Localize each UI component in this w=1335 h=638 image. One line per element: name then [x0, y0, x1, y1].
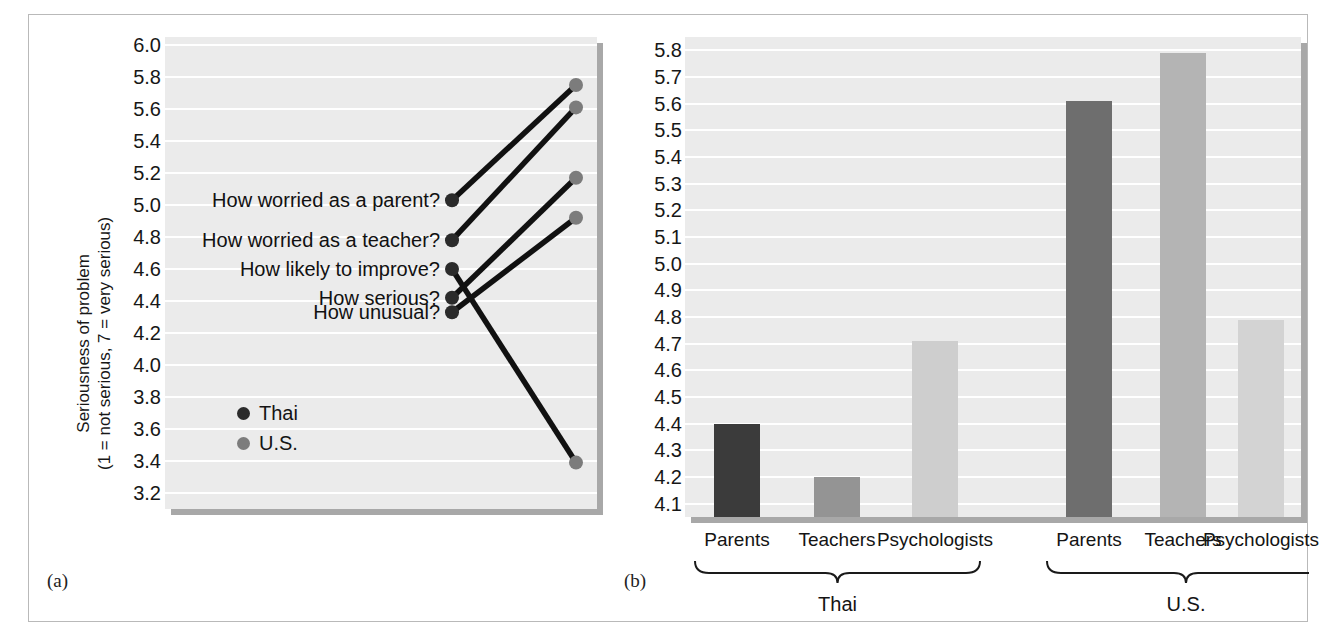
legend-marker-icon [237, 407, 250, 420]
bar-group-label: U.S. [1167, 593, 1206, 616]
slopegraph-item-label: How worried as a parent? [212, 189, 440, 212]
legend-item-thai: Thai [237, 398, 298, 428]
legend-item-us: U.S. [237, 428, 298, 458]
panel-a-slopegraph: Seriousness of problem (1 = not serious,… [29, 15, 614, 621]
slopegraph-item-label: How likely to improve? [240, 258, 440, 281]
legend-label: U.S. [259, 432, 298, 455]
panel-a-label: (a) [47, 570, 68, 592]
slopegraph-legend: ThaiU.S. [237, 398, 298, 458]
bargraph-group-braces: ThaiU.S. [614, 15, 1309, 621]
panel-b-label: (b) [624, 570, 646, 592]
panel-b-bargraph: 5.85.75.65.55.45.35.25.15.04.94.84.74.64… [614, 15, 1309, 621]
slopegraph-item-label: How worried as a teacher? [202, 229, 440, 252]
slopegraph-item-label: How unusual? [313, 301, 440, 324]
figure-frame: Seriousness of problem (1 = not serious,… [28, 14, 1308, 622]
figure-root: Seriousness of problem (1 = not serious,… [0, 0, 1335, 638]
legend-marker-icon [237, 437, 250, 450]
legend-label: Thai [259, 402, 298, 425]
slopegraph-item-labels: How worried as a parent?How worried as a… [29, 15, 614, 621]
